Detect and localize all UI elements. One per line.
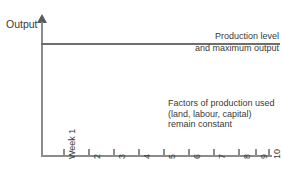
x-axis-tick — [188, 149, 190, 156]
x-axis-tick-label: 4 — [142, 154, 152, 159]
x-axis-tick — [138, 149, 140, 156]
x-axis-tick-label: 3 — [117, 154, 127, 159]
x-axis-tick-label: 7 — [217, 154, 227, 159]
factors-annotation-line-1: Factors of production used — [168, 98, 275, 109]
production-level-annotation-line-1: Production level — [215, 31, 279, 41]
y-axis-title: Output — [6, 18, 38, 30]
x-axis-tick — [255, 149, 257, 156]
x-axis-tick-label: 6 — [192, 154, 202, 159]
x-axis-tick-label: 8 — [242, 154, 252, 159]
production-level-annotation: Production level and maximum output — [195, 31, 279, 54]
factors-annotation-line-3: remain constant — [168, 119, 275, 130]
x-axis-tick-label: Week 1 — [67, 129, 77, 159]
x-axis-tick — [113, 149, 115, 156]
x-axis-tick-label: 9 — [259, 154, 269, 159]
x-axis-tick — [163, 149, 165, 156]
x-axis-tick — [63, 149, 65, 156]
factors-of-production-annotation: Factors of production used (land, labour… — [168, 98, 275, 130]
x-axis-tick — [88, 149, 90, 156]
x-axis-tick — [238, 149, 240, 156]
x-axis-tick-label: 2 — [92, 154, 102, 159]
factors-annotation-line-2: (land, labour, capital) — [168, 109, 275, 120]
production-level-chart: Output Week 1 2 3 4 5 6 7 8 9 10 Product… — [0, 0, 282, 195]
x-axis-tick-label: 5 — [167, 154, 177, 159]
x-axis-tick-label: 10 — [272, 149, 282, 159]
x-axis-tick — [213, 149, 215, 156]
production-level-annotation-line-2: and maximum output — [195, 43, 279, 55]
